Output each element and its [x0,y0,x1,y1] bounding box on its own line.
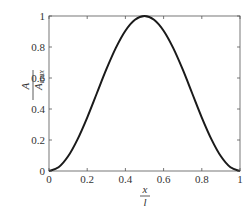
x-tick-label: 1 [237,173,243,185]
x-tick-label: 0.4 [119,173,133,185]
x-axis-label: x l [140,183,150,208]
x-tick-label: 0.8 [195,173,209,185]
plot-frame [49,16,240,171]
x-tick-label: 0.2 [80,173,94,185]
y-label-numerator: A [19,82,31,90]
x-label-numerator: x [142,183,148,195]
y-axis: 00.20.40.60.81 [31,10,240,177]
y-tick-label: 0.4 [31,103,45,115]
y-tick-label: 0 [40,165,46,177]
y-tick-label: 1 [40,10,46,22]
y-tick-label: 0.8 [31,41,45,53]
y-tick-label: 0.2 [31,134,45,146]
chart: 00.20.40.60.81 00.20.40.60.81 A Amax x l [0,0,247,210]
plot-area [49,16,240,171]
x-tick-label: 0 [46,173,52,185]
series-line [49,16,240,171]
x-axis: 00.20.40.60.81 [46,16,243,185]
x-label-denominator: l [143,196,146,208]
x-tick-label: 0.6 [157,173,171,185]
